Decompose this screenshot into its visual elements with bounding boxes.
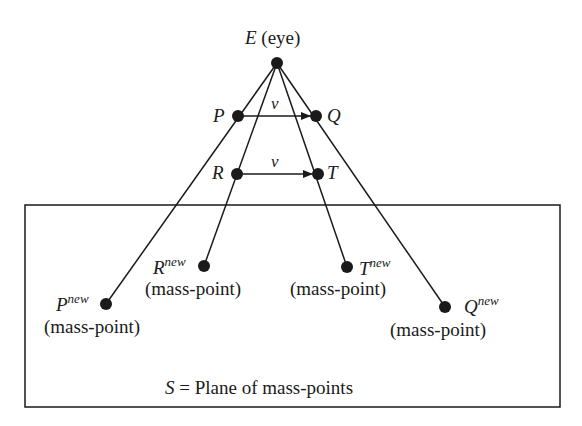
label-q: Q (327, 106, 341, 125)
label-p: P (213, 106, 225, 125)
rnew-sup: new (165, 254, 186, 269)
caption-qnew: (mass-point) (390, 320, 486, 339)
pnew-sup: new (68, 291, 89, 306)
vector-label-rt: ν (271, 153, 279, 170)
label-tnew: Tnew (359, 256, 391, 278)
pnew-symbol: P (56, 294, 68, 315)
caption-pnew: (mass-point) (44, 317, 140, 336)
mass-point-pnew (100, 298, 112, 310)
qnew-symbol: Q (464, 296, 478, 317)
label-pnew: Pnew (56, 292, 89, 314)
eye-caption: (eye) (261, 27, 300, 48)
vector-label-pq: ν (271, 95, 279, 112)
point-p (232, 110, 244, 122)
plane-symbol: S (165, 377, 175, 398)
ray-to-pnew (106, 63, 277, 304)
tnew-sup: new (370, 255, 391, 270)
eye-symbol: E (245, 27, 257, 48)
point-t (312, 168, 324, 180)
caption-rnew: (mass-point) (145, 279, 241, 298)
label-rnew: Rnew (153, 255, 186, 277)
qnew-sup: new (478, 293, 499, 308)
rnew-symbol: R (153, 257, 165, 278)
label-t: T (327, 163, 338, 182)
plane-caption: Plane of mass-points (195, 377, 353, 398)
label-qnew: Qnew (464, 294, 499, 316)
mass-point-qnew (439, 301, 451, 313)
plane-equals: = (179, 377, 190, 398)
point-r (231, 168, 243, 180)
tnew-symbol: T (359, 258, 370, 279)
eye-label: E (eye) (245, 28, 300, 47)
diagram-canvas (0, 0, 582, 426)
eye-point (271, 57, 283, 69)
label-r: R (212, 163, 224, 182)
mass-point-rnew (198, 260, 210, 272)
mass-point-tnew (341, 261, 353, 273)
caption-tnew: (mass-point) (290, 279, 386, 298)
plane-label: S = Plane of mass-points (165, 378, 353, 397)
point-q (310, 110, 322, 122)
